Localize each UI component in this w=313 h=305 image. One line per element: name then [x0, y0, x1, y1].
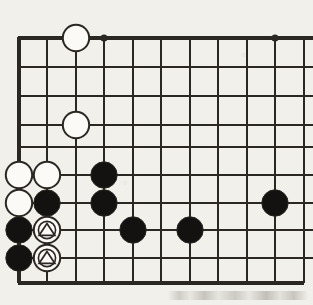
stone-black[interactable] [91, 162, 117, 188]
black-stone[interactable] [91, 190, 117, 216]
stone-white[interactable] [63, 112, 89, 138]
black-stone[interactable] [262, 190, 288, 216]
go-board-diagram [0, 0, 313, 305]
star-point-top-left-icon [100, 34, 107, 41]
stone-white[interactable] [34, 162, 60, 188]
black-stone[interactable] [34, 190, 60, 216]
stone-black[interactable] [91, 190, 117, 216]
stone-white-marked[interactable] [34, 217, 60, 243]
black-stone[interactable] [177, 217, 203, 243]
stone-black[interactable] [34, 190, 60, 216]
black-stone[interactable] [120, 217, 146, 243]
black-stone[interactable] [6, 217, 32, 243]
stone-black[interactable] [120, 217, 146, 243]
stone-black[interactable] [262, 190, 288, 216]
black-stone[interactable] [6, 245, 32, 271]
white-stone[interactable] [63, 25, 89, 51]
black-stone[interactable] [91, 162, 117, 188]
go-board-canvas[interactable] [0, 0, 313, 305]
stone-black[interactable] [177, 217, 203, 243]
stone-white[interactable] [63, 25, 89, 51]
white-stone[interactable] [6, 190, 32, 216]
white-stone[interactable] [63, 112, 89, 138]
stone-white-marked[interactable] [34, 245, 60, 271]
white-stone[interactable] [34, 162, 60, 188]
stone-black[interactable] [6, 245, 32, 271]
star-point-top-right-icon [271, 34, 278, 41]
white-stone[interactable] [6, 162, 32, 188]
stone-white[interactable] [6, 162, 32, 188]
stone-black[interactable] [6, 217, 32, 243]
stone-white[interactable] [6, 190, 32, 216]
